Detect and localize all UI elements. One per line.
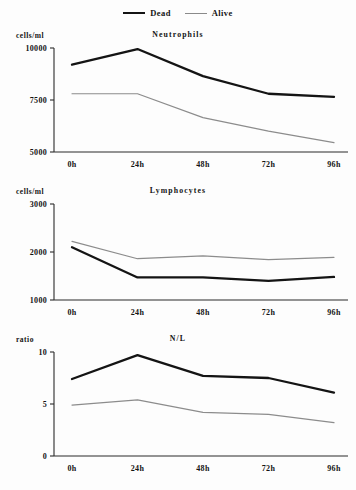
x-tick-label: 0h: [67, 160, 76, 169]
y-tick-label: 3000: [30, 200, 47, 209]
y-tick-label: 10000: [26, 44, 48, 53]
x-tick-label: 24h: [131, 160, 145, 169]
legend-line-swatch-alive: [185, 13, 207, 14]
y-tick-label: 0: [43, 452, 47, 461]
series-line-alive: [72, 241, 334, 259]
legend-entry-dead: Dead: [123, 8, 171, 18]
y-tick-label: 5: [43, 400, 47, 409]
chart-title-nl: N/L: [0, 334, 356, 343]
chart-panel-neutrophils: cells/ml Neutrophils 10000750050000h24h4…: [0, 30, 356, 180]
x-tick-label: 72h: [262, 464, 276, 473]
legend-label-dead: Dead: [150, 8, 171, 18]
plot-area-nl: 10500h24h48h72h96h: [0, 344, 356, 484]
legend-line-swatch-dead: [123, 12, 145, 14]
x-tick-label: 0h: [67, 464, 76, 473]
series-line-dead: [72, 355, 334, 392]
series-line-alive: [72, 94, 334, 143]
x-tick-label: 48h: [196, 308, 210, 317]
series-line-dead: [72, 49, 334, 97]
x-tick-label: 96h: [327, 308, 341, 317]
plot-area-lymphocytes: 3000200010000h24h48h72h96h: [0, 196, 356, 328]
y-tick-label: 1000: [30, 296, 47, 305]
x-tick-label: 96h: [327, 160, 341, 169]
chart-legend: Dead Alive: [0, 8, 356, 18]
x-tick-label: 0h: [67, 308, 76, 317]
y-tick-label: 5000: [30, 148, 47, 157]
legend-label-alive: Alive: [212, 8, 233, 18]
plot-area-neutrophils: 10000750050000h24h48h72h96h: [0, 40, 356, 180]
legend-entry-alive: Alive: [185, 8, 233, 18]
x-tick-label: 48h: [196, 464, 210, 473]
x-tick-label: 24h: [131, 464, 145, 473]
series-line-alive: [72, 400, 334, 423]
x-tick-label: 72h: [262, 160, 276, 169]
y-tick-label: 10: [38, 348, 47, 357]
chart-panel-nl: ratio N/L 10500h24h48h72h96h: [0, 334, 356, 484]
x-tick-label: 72h: [262, 308, 276, 317]
figure-container: Dead Alive cells/ml Neutrophils 10000750…: [0, 0, 356, 490]
y-tick-label: 2000: [30, 248, 47, 257]
x-tick-label: 48h: [196, 160, 210, 169]
x-tick-label: 96h: [327, 464, 341, 473]
chart-title-neutrophils: Neutrophils: [0, 30, 356, 39]
x-tick-label: 24h: [131, 308, 145, 317]
chart-panel-lymphocytes: cells/ml Lymphocytes 3000200010000h24h48…: [0, 186, 356, 328]
y-tick-label: 7500: [30, 96, 47, 105]
chart-title-lymphocytes: Lymphocytes: [0, 186, 356, 195]
